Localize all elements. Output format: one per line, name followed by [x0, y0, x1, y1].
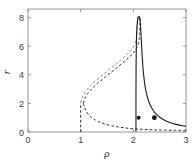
y-tick-labels: 0 2 4 6 8 — [19, 13, 24, 137]
y-tick-label-4: 4 — [19, 70, 24, 80]
y-tick-label-0: 0 — [19, 128, 24, 138]
chart-canvas: 0 2 4 6 8 0 1 2 3 ρ r — [0, 0, 195, 161]
marker-left — [137, 116, 141, 120]
series-stable-branch-solid — [136, 16, 186, 131]
series-upper-unstable-branch-secondary — [81, 15, 138, 103]
x-tick-label-3: 3 — [183, 135, 188, 145]
data-layer — [81, 15, 186, 132]
series-upper-unstable-branch — [83, 17, 140, 104]
y-tick-label-2: 2 — [19, 99, 24, 109]
marker-group — [137, 115, 157, 120]
series-lower-unstable-branch — [83, 103, 186, 130]
x-tick-label-0: 0 — [25, 135, 30, 145]
axes-frame — [28, 9, 186, 132]
x-axis-title: ρ — [103, 147, 109, 159]
series-group — [81, 15, 186, 132]
x-tick-label-1: 1 — [78, 135, 83, 145]
figure-container: 0 2 4 6 8 0 1 2 3 ρ r — [0, 0, 195, 161]
marker-right — [152, 115, 157, 120]
y-tick-label-8: 8 — [19, 13, 24, 23]
x-tick-label-2: 2 — [131, 135, 136, 145]
x-tick-labels: 0 1 2 3 — [25, 135, 188, 145]
x-axis-ticks — [28, 9, 186, 132]
y-tick-label-6: 6 — [19, 42, 24, 52]
y-axis-ticks — [28, 18, 186, 132]
y-axis-title: r — [0, 69, 12, 74]
